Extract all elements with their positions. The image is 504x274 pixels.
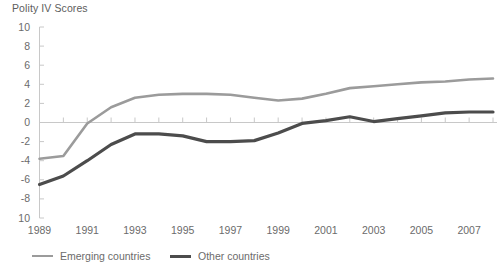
y-axis-tick-label: 8 [4,41,30,51]
legend-swatch-icon [32,255,53,257]
chart-figure: Polity IV Scores 1086420-2-4-6-810 19891… [0,0,504,274]
x-axis-tick-label: 2007 [447,225,491,236]
y-axis-tick-label: -2 [4,136,30,146]
y-axis-tick-label: -6 [4,174,30,184]
x-axis-tick-label: 2001 [304,225,348,236]
legend-item-emerging-countries[interactable]: Emerging countries [32,250,150,262]
y-axis-tick-label: 6 [4,60,30,70]
legend-item-other-countries[interactable]: Other countries [170,250,270,262]
y-axis-tick-label: 4 [4,79,30,89]
y-axis-tick-label: 2 [4,98,30,108]
chart-legend: Emerging countriesOther countries [0,250,504,270]
y-axis-tick-label: -8 [4,193,30,203]
y-axis-tick-label: 10 [4,213,30,223]
x-axis-tick-label: 1999 [256,225,300,236]
x-axis-tick-label: 1991 [65,225,109,236]
y-axis-tick-label: 10 [4,22,30,32]
legend-item-label: Emerging countries [60,250,150,262]
x-axis-tick-label: 2003 [352,225,396,236]
legend-item-label: Other countries [198,250,270,262]
y-axis-tick-label: -4 [4,155,30,165]
x-axis-tick-label: 1997 [208,225,252,236]
x-axis-tick-label: 2005 [399,225,443,236]
legend-swatch-icon [170,255,191,258]
y-axis-tick-label: 0 [4,117,30,127]
x-axis-tick-label: 1995 [161,225,205,236]
x-axis-tick-label: 1993 [113,225,157,236]
x-axis-tick-label: 1989 [18,225,62,236]
